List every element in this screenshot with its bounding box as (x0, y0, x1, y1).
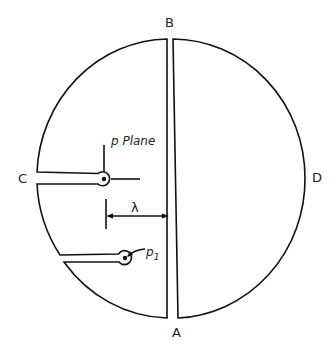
p-origin-dot (102, 177, 106, 181)
label-a: A (172, 325, 181, 340)
diagram: B A C D p Plane λ p1 (0, 0, 336, 352)
label-p1: p1 (145, 245, 159, 262)
label-c: C (18, 171, 27, 186)
p1-dot (123, 256, 127, 260)
label-lambda: λ (131, 200, 139, 215)
label-b: B (165, 15, 174, 30)
label-d: D (312, 170, 322, 185)
lambda-arrow-left-icon (106, 214, 113, 219)
right-half-outline (173, 39, 305, 318)
lambda-arrow-right-icon (162, 214, 169, 219)
label-p-plane: p Plane (110, 134, 155, 148)
